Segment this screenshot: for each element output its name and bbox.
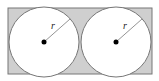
radius-label: r xyxy=(51,20,55,31)
diagram-canvas: r r xyxy=(0,0,159,81)
center-point xyxy=(114,40,119,45)
circle-left: r xyxy=(9,7,79,77)
radius-label: r xyxy=(123,20,127,31)
center-point xyxy=(42,40,47,45)
circle-right: r xyxy=(81,7,151,77)
